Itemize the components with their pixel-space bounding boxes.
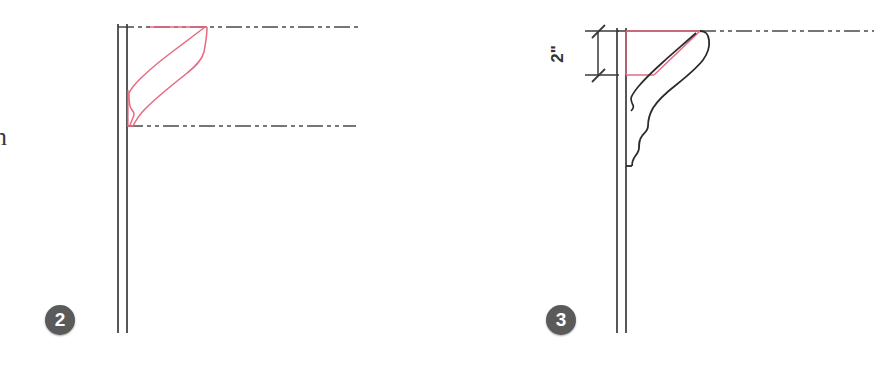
detail-3-molding-lower-returns xyxy=(632,126,648,166)
dimension-label-2-inch: 2" xyxy=(545,41,585,67)
detail-3-molding-inner-fillet xyxy=(631,98,633,111)
detail-callout-bubble-3[interactable]: 3 xyxy=(546,305,576,335)
technical-drawing-canvas xyxy=(0,0,891,368)
detail-3-red-overlay-diagonal xyxy=(654,31,700,75)
detail-3-molding-outer-profile xyxy=(648,31,709,126)
detail-2-group xyxy=(118,24,362,333)
detail-2-molding-fillet xyxy=(129,93,134,126)
detail-2-molding-inner-profile xyxy=(129,27,205,93)
drawing-sheet: 2" n 2 3 xyxy=(0,0,891,368)
margin-note-text: n xyxy=(0,122,7,152)
detail-2-molding-outer-profile xyxy=(133,27,207,126)
detail-callout-bubble-2[interactable]: 2 xyxy=(45,305,75,335)
detail-3-group xyxy=(585,25,874,333)
